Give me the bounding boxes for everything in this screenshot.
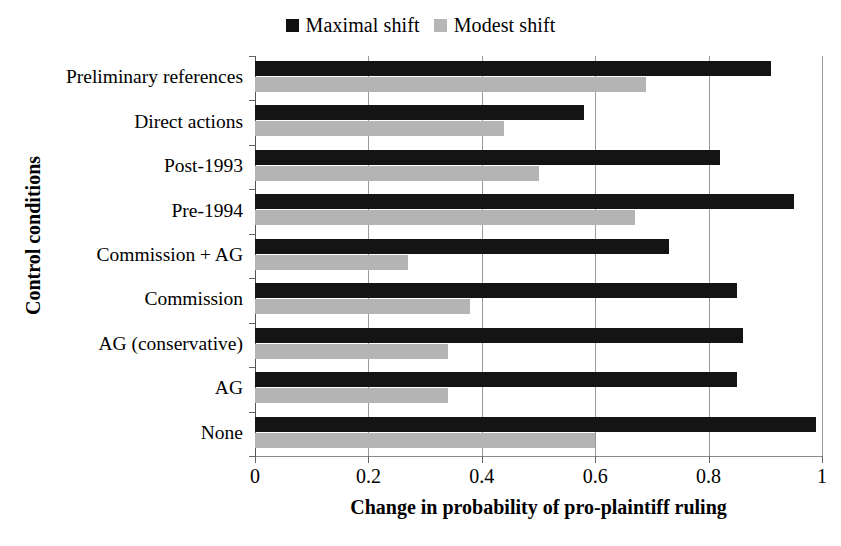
bar-modest-shift (255, 255, 408, 270)
bar-group (255, 412, 822, 456)
x-axis-tick-label: 0.4 (469, 464, 494, 488)
x-axis-tick-label: 0.2 (356, 464, 381, 488)
legend-entry-maximal: Maximal shift (286, 15, 420, 35)
x-axis-tick (709, 456, 710, 463)
bar-modest-shift (255, 210, 635, 225)
bar-maximal-shift (255, 283, 737, 298)
bar-maximal-shift (255, 372, 737, 387)
legend-swatch-maximal (286, 19, 299, 32)
x-axis-tick (255, 456, 256, 463)
bar-maximal-shift (255, 417, 816, 432)
chart-legend: Maximal shiftModest shift (0, 8, 841, 42)
bar-maximal-shift (255, 239, 669, 254)
y-axis-label: Commission (0, 288, 243, 310)
plot-area (255, 56, 822, 456)
y-axis-label: None (0, 422, 243, 444)
legend-swatch-modest (434, 19, 447, 32)
bars-layer (255, 56, 822, 456)
bar-maximal-shift (255, 150, 720, 165)
x-axis-tick-labels: 00.20.40.60.81 (255, 464, 822, 490)
bar-group (255, 323, 822, 367)
legend-label: Maximal shift (306, 15, 420, 35)
x-axis-tick-label: 1 (817, 464, 827, 488)
y-axis-label: Commission + AG (0, 244, 243, 266)
bar-group (255, 278, 822, 322)
bar-group (255, 189, 822, 233)
x-axis-tick-label: 0.6 (583, 464, 608, 488)
bar-modest-shift (255, 388, 448, 403)
bar-group (255, 56, 822, 100)
bar-chart: Maximal shiftModest shift Control condit… (0, 0, 841, 546)
legend-entry-modest: Modest shift (434, 15, 556, 35)
y-axis-label: AG (0, 377, 243, 399)
bar-modest-shift (255, 299, 470, 314)
bar-group (255, 234, 822, 278)
x-axis-ticks (255, 456, 822, 463)
bar-maximal-shift (255, 61, 771, 76)
y-axis-label: Pre-1994 (0, 200, 243, 222)
bar-modest-shift (255, 121, 504, 136)
bar-maximal-shift (255, 194, 794, 209)
legend-label: Modest shift (454, 15, 556, 35)
gridline (822, 56, 823, 456)
y-axis-label: AG (conservative) (0, 333, 243, 355)
x-axis-tick (822, 456, 823, 463)
bar-modest-shift (255, 77, 646, 92)
bar-group (255, 145, 822, 189)
bar-group (255, 367, 822, 411)
x-axis-tick (368, 456, 369, 463)
bar-maximal-shift (255, 328, 743, 343)
x-axis-tick-label: 0 (250, 464, 260, 488)
y-axis-label: Post-1993 (0, 155, 243, 177)
bar-modest-shift (255, 344, 448, 359)
bar-maximal-shift (255, 105, 584, 120)
x-axis-tick-label: 0.8 (696, 464, 721, 488)
y-axis-label: Direct actions (0, 111, 243, 133)
bar-modest-shift (255, 433, 595, 448)
bar-modest-shift (255, 166, 539, 181)
y-axis-labels: Preliminary referencesDirect actionsPost… (0, 56, 243, 456)
x-axis-title: Change in probability of pro-plaintiff r… (255, 496, 822, 519)
y-axis-label: Preliminary references (0, 66, 243, 88)
bar-group (255, 100, 822, 144)
x-axis-tick (595, 456, 596, 463)
x-axis-tick (482, 456, 483, 463)
